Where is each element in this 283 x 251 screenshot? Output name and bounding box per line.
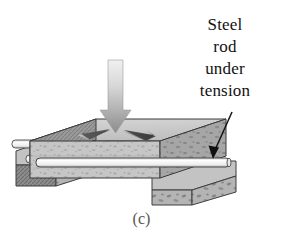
annotation-line-2: rod <box>168 36 282 58</box>
figure-caption: (c) <box>0 210 283 228</box>
annotation-line-4: tension <box>168 80 282 102</box>
annotation-line-3: under <box>168 58 282 80</box>
steel-rod <box>36 158 231 167</box>
figure-container: Steel rod under tension (c) <box>0 0 283 251</box>
annotation-label: Steel rod under tension <box>168 14 282 102</box>
annotation-line-1: Steel <box>168 14 282 36</box>
